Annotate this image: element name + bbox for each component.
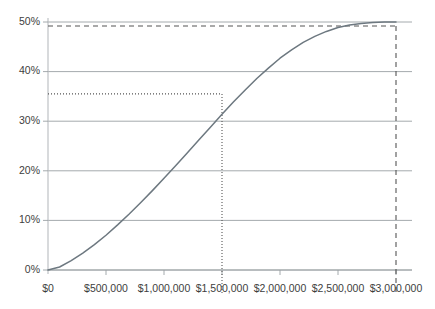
chart-container: 0%10%20%30%40%50% $0$500,000$1,000,000$1… (0, 0, 435, 309)
y-tick-label-0: 0% (25, 263, 40, 275)
x-tick-label-5: $2,500,000 (312, 282, 365, 294)
x-tick-label-0: $0 (42, 282, 54, 294)
y-tick-label-2: 20% (19, 164, 40, 176)
y-tick-label-4: 40% (19, 64, 40, 76)
gridlines (48, 22, 412, 270)
x-tick-label-3: $1,500,000 (196, 282, 249, 294)
x-tick-label-6: $3,000,000 (370, 282, 423, 294)
x-tick-label-4: $2,000,000 (254, 282, 307, 294)
y-tick-label-3: 30% (19, 114, 40, 126)
x-axis-ticks (48, 270, 412, 275)
annotation-guides (48, 26, 396, 294)
y-tick-labels: 0%10%20%30%40%50% (19, 15, 40, 275)
y-tick-label-5: 50% (19, 15, 40, 27)
y-axis-ticks (43, 22, 48, 270)
y-tick-label-1: 10% (19, 213, 40, 225)
x-tick-label-2: $1,000,000 (138, 282, 191, 294)
x-tick-labels: $0$500,000$1,000,000$1,500,000$2,000,000… (42, 282, 422, 294)
x-tick-label-1: $500,000 (84, 282, 128, 294)
line-chart: 0%10%20%30%40%50% $0$500,000$1,000,000$1… (0, 0, 435, 309)
